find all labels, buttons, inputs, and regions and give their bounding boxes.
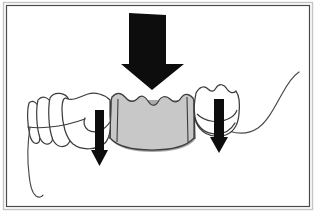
illustration-canvas bbox=[0, 0, 316, 213]
dental-illustration-figure: Occlusal loading of a fixed partial dent… bbox=[0, 0, 316, 213]
